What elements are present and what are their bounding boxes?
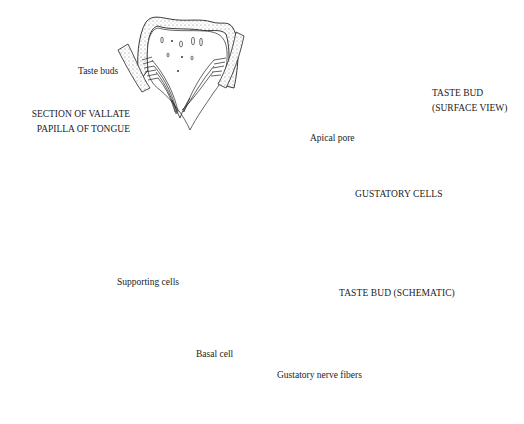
surface-view-title: TASTE BUD (SURFACE VIEW) bbox=[432, 86, 507, 116]
section-title-line2: PAPILLA OF TONGUE bbox=[22, 122, 130, 137]
surface-view-title-line1: TASTE BUD bbox=[432, 86, 507, 101]
label-gustatory-nerve-fibers: Gustatory nerve fibers bbox=[277, 371, 362, 381]
label-apical-pore: Apical pore bbox=[310, 134, 355, 144]
section-title-line1: SECTION OF VALLATE bbox=[22, 107, 130, 122]
label-taste-buds: Taste buds bbox=[78, 67, 118, 77]
surface-view-title-line2: (SURFACE VIEW) bbox=[432, 101, 507, 116]
section-title: SECTION OF VALLATE PAPILLA OF TONGUE bbox=[22, 107, 130, 137]
label-gustatory-cells: GUSTATORY CELLS bbox=[355, 190, 443, 200]
taste-bud-diagram bbox=[0, 0, 524, 424]
label-supporting-cells: Supporting cells bbox=[117, 278, 179, 288]
schematic-title: TASTE BUD (SCHEMATIC) bbox=[339, 289, 455, 299]
vallate-papilla-section bbox=[118, 17, 244, 130]
label-basal-cell: Basal cell bbox=[196, 350, 233, 360]
